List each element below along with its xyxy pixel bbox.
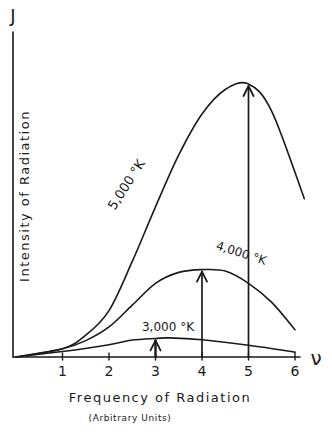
x-tick-label: 2 <box>105 363 114 379</box>
y-axis-label: Intensity of Radiation <box>17 110 32 282</box>
curve-5000k <box>16 83 304 357</box>
label-3000k: 3,000 °K <box>142 320 195 334</box>
x-axis-symbol: ν <box>310 346 321 370</box>
peak-arrows <box>151 86 254 357</box>
x-tick-label: 1 <box>58 363 67 379</box>
label-4000k: 4,000 °K <box>214 238 269 268</box>
x-tick-label: 3 <box>151 363 160 379</box>
curves <box>16 83 304 357</box>
x-tick-label: 5 <box>244 363 253 379</box>
blackbody-radiation-chart: J Intensity of Radiation ν 123456 5,000 … <box>0 0 332 434</box>
label-5000k: 5,000 °K <box>105 156 149 212</box>
x-axis-sublabel: (Arbitrary Units) <box>89 413 172 423</box>
y-axis-symbol: J <box>9 5 15 26</box>
x-tick-label: 6 <box>291 363 300 379</box>
x-axis-label: Frequency of Radiation <box>69 390 251 405</box>
x-tick-label: 4 <box>198 363 207 379</box>
